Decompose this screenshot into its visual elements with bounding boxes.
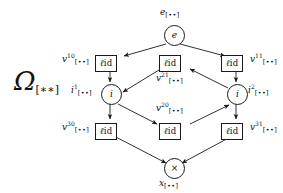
node-i2-circle: i xyxy=(227,84,248,105)
node-v10-box: ℓid xyxy=(95,55,117,72)
node-v10-label: v10[••] xyxy=(62,55,89,64)
edge-i1-to-v20 xyxy=(118,104,157,124)
node-v21-box: ℓid xyxy=(159,55,181,72)
node-i2[interactable]: i xyxy=(227,84,248,105)
node-v30-box: ℓid xyxy=(95,123,117,140)
node-e[interactable]: e xyxy=(164,25,185,46)
node-e-label: e[••] xyxy=(160,8,180,17)
edge-v20-to-i2 xyxy=(190,105,229,124)
node-x[interactable]: × xyxy=(164,158,185,179)
node-i2-glyph: i xyxy=(236,90,239,99)
node-v21[interactable]: ℓid xyxy=(159,55,181,72)
node-x-label: x[••] xyxy=(159,179,178,188)
node-v20-box: ℓid xyxy=(159,123,181,140)
edge-v30-to-x xyxy=(112,135,166,163)
node-v30[interactable]: ℓid xyxy=(95,123,117,140)
node-e-glyph: e xyxy=(172,31,177,40)
node-i1-label: i1[••] xyxy=(71,86,92,95)
node-x-glyph: × xyxy=(171,164,179,173)
node-x-circle: × xyxy=(164,158,185,179)
omega-label: Ω[∗∗] xyxy=(14,68,59,94)
omega-subscript: [∗∗] xyxy=(36,83,60,96)
diagram-canvas: Ω[∗∗] e e[••] ℓid v10[••] ℓid v21[••] ℓi… xyxy=(0,0,283,193)
edge-v21-to-i1 xyxy=(123,70,159,92)
node-i1[interactable]: i xyxy=(101,84,122,105)
node-v11-box: ℓid xyxy=(221,55,243,72)
node-v20[interactable]: ℓid xyxy=(159,123,181,140)
node-v11-label: v11[••] xyxy=(250,55,277,64)
node-v21-label: v21[••] xyxy=(156,74,183,83)
edge-e-to-v11 xyxy=(180,44,225,56)
node-v31-box: ℓid xyxy=(221,123,243,140)
node-v10[interactable]: ℓid xyxy=(95,55,117,72)
node-v31-label: v31[••] xyxy=(250,123,277,132)
node-i2-label: i2[••] xyxy=(248,86,269,95)
node-v31[interactable]: ℓid xyxy=(221,123,243,140)
node-i1-circle: i xyxy=(101,84,122,105)
node-v30-label: v30[••] xyxy=(62,123,89,132)
node-e-circle: e xyxy=(164,25,185,46)
node-v20-label: v20[••] xyxy=(156,104,183,113)
node-i1-glyph: i xyxy=(110,90,113,99)
node-v11[interactable]: ℓid xyxy=(221,55,243,72)
omega-symbol: Ω xyxy=(14,66,36,96)
